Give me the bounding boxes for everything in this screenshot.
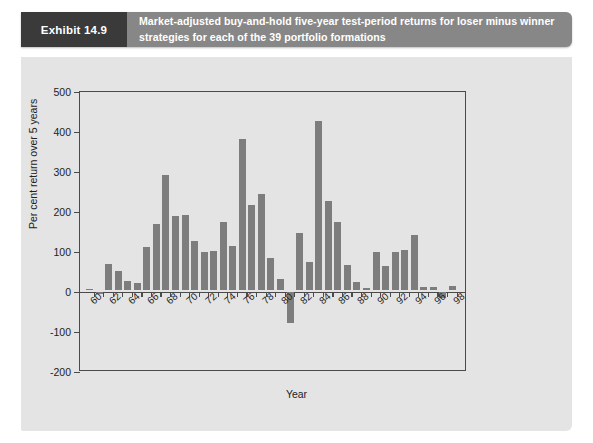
bar bbox=[124, 281, 131, 290]
bar bbox=[449, 286, 456, 290]
x-tick bbox=[103, 292, 104, 297]
x-tick bbox=[351, 292, 352, 297]
y-tick-label: -200 bbox=[50, 366, 71, 378]
x-tick bbox=[141, 292, 142, 297]
x-tick bbox=[294, 292, 295, 297]
bar bbox=[162, 175, 169, 290]
y-tick bbox=[74, 292, 80, 293]
y-tick bbox=[74, 212, 80, 213]
bar bbox=[201, 252, 208, 290]
bar bbox=[353, 282, 360, 290]
x-tick bbox=[332, 292, 333, 297]
bar bbox=[191, 241, 198, 290]
bar bbox=[382, 266, 389, 290]
exhibit-title: Market-adjusted buy-and-hold five-year t… bbox=[127, 12, 572, 47]
x-tick bbox=[447, 292, 448, 297]
bar bbox=[229, 246, 236, 290]
figure-panel: Per cent return over 5 years 50040030020… bbox=[21, 57, 572, 431]
bar bbox=[267, 258, 274, 290]
bar bbox=[248, 205, 255, 290]
x-tick bbox=[237, 292, 238, 297]
bar-series bbox=[80, 92, 465, 370]
exhibit-page: Exhibit 14.9 Market-adjusted buy-and-hol… bbox=[0, 0, 593, 443]
bar bbox=[182, 215, 189, 290]
bar bbox=[306, 262, 313, 290]
y-tick bbox=[74, 172, 80, 173]
bar bbox=[401, 250, 408, 290]
bar bbox=[363, 288, 370, 290]
exhibit-number-badge: Exhibit 14.9 bbox=[21, 12, 127, 47]
bar bbox=[315, 121, 322, 290]
bar bbox=[411, 235, 418, 290]
y-tick-label: 200 bbox=[53, 206, 71, 218]
bar bbox=[373, 252, 380, 290]
x-tick bbox=[275, 292, 276, 297]
bar bbox=[239, 139, 246, 290]
y-tick bbox=[74, 332, 80, 333]
y-tick-label: 0 bbox=[65, 286, 71, 298]
y-tick-label: 500 bbox=[53, 86, 71, 98]
x-tick bbox=[409, 292, 410, 297]
bar bbox=[296, 233, 303, 290]
y-tick bbox=[74, 372, 80, 373]
bar bbox=[86, 289, 93, 290]
bar bbox=[115, 271, 122, 290]
x-tick bbox=[199, 292, 200, 297]
bar bbox=[277, 279, 284, 290]
y-axis-title: Per cent return over 5 years bbox=[27, 99, 39, 229]
x-tick bbox=[313, 292, 314, 297]
y-tick-label: 400 bbox=[53, 126, 71, 138]
bar bbox=[430, 287, 437, 290]
x-tick bbox=[371, 292, 372, 297]
bar bbox=[220, 222, 227, 290]
bar bbox=[143, 247, 150, 290]
x-tick bbox=[218, 292, 219, 297]
bar bbox=[344, 265, 351, 290]
y-tick-label: -100 bbox=[50, 326, 71, 338]
x-tick bbox=[160, 292, 161, 297]
y-tick-label: 100 bbox=[53, 246, 71, 258]
bar bbox=[258, 194, 265, 290]
x-tick bbox=[428, 292, 429, 297]
x-tick bbox=[122, 292, 123, 297]
y-tick bbox=[74, 92, 80, 93]
bar bbox=[334, 222, 341, 290]
y-tick-label: 300 bbox=[53, 166, 71, 178]
x-axis-title: Year bbox=[21, 388, 572, 400]
bar bbox=[392, 252, 399, 290]
x-tick bbox=[256, 292, 257, 297]
bar bbox=[325, 201, 332, 290]
plot-area: 5004003002001000-100-200 606264666870727… bbox=[79, 91, 466, 371]
x-tick bbox=[180, 292, 181, 297]
bar bbox=[153, 224, 160, 290]
bar bbox=[134, 283, 141, 290]
bar bbox=[210, 251, 217, 290]
bar bbox=[172, 216, 179, 290]
y-tick bbox=[74, 132, 80, 133]
y-tick bbox=[74, 252, 80, 253]
x-tick bbox=[390, 292, 391, 297]
bar bbox=[105, 264, 112, 290]
bar bbox=[420, 287, 427, 290]
exhibit-header: Exhibit 14.9 Market-adjusted buy-and-hol… bbox=[21, 12, 572, 47]
